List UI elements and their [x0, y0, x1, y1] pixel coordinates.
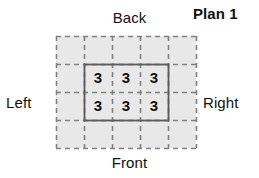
mat-plan-grid: 333333	[0, 0, 259, 178]
cell-value: 3	[122, 69, 130, 86]
cell-value: 3	[94, 97, 102, 114]
cell-value: 3	[94, 69, 102, 86]
cell-value: 3	[122, 97, 130, 114]
cell-value: 3	[150, 97, 158, 114]
diagram-canvas: Back Plan 1 Left Right Front 333333	[0, 0, 259, 178]
cell-value: 3	[150, 69, 158, 86]
